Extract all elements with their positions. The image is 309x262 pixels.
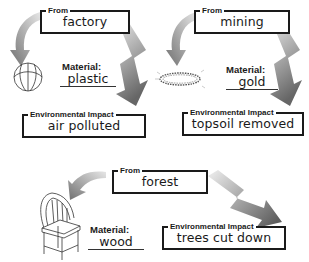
curved-arrow-icon bbox=[166, 12, 196, 66]
material-value: gold bbox=[226, 74, 278, 90]
zigzag-arrow-icon bbox=[208, 170, 282, 228]
impact-box: Environmental Impact topsoil removed bbox=[182, 112, 304, 136]
gold-chain-icon bbox=[160, 73, 200, 85]
material-value: plastic bbox=[60, 71, 116, 87]
source-box: From factory bbox=[40, 10, 130, 34]
impact-box: Environmental Impact trees cut down bbox=[162, 226, 286, 250]
impact-value: topsoil removed bbox=[184, 116, 302, 131]
source-box: From forest bbox=[112, 170, 208, 194]
curved-arrow-icon bbox=[10, 12, 40, 66]
material-value: wood bbox=[88, 234, 144, 250]
wooden-chair-icon bbox=[41, 193, 80, 260]
source-value: forest bbox=[114, 174, 206, 189]
impact-value: trees cut down bbox=[164, 230, 284, 245]
curved-arrow-icon bbox=[68, 172, 106, 201]
impact-value: air polluted bbox=[24, 118, 144, 133]
source-box: From mining bbox=[194, 10, 290, 34]
source-value: mining bbox=[196, 14, 288, 29]
impact-box: Environmental Impact air polluted bbox=[22, 114, 146, 138]
beach-ball-icon bbox=[14, 63, 42, 91]
source-value: factory bbox=[42, 14, 128, 29]
